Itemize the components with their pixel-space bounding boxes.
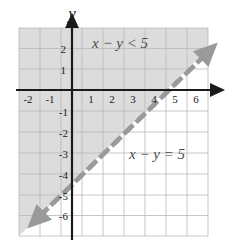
y-tick-label--3: -3 — [59, 148, 69, 160]
graph-figure: y -2 -1 1 2 3 4 5 6 2 1 -1 -2 -3 -4 -5 -… — [0, 0, 225, 244]
x-tick-label--2: -2 — [23, 93, 32, 105]
y-tick-label--6: -6 — [59, 210, 69, 222]
x-tick-label-2: 2 — [109, 93, 115, 105]
x-tick-label-6: 6 — [193, 93, 199, 105]
y-tick-label-2: 2 — [61, 43, 67, 55]
x-tick-label--1: -1 — [45, 93, 54, 105]
coordinate-plane-svg: y -2 -1 1 2 3 4 5 6 2 1 -1 -2 -3 -4 -5 -… — [0, 0, 225, 244]
x-tick-label-5: 5 — [172, 93, 178, 105]
x-tick-label-3: 3 — [130, 93, 136, 105]
y-tick-label-1: 1 — [61, 64, 67, 76]
equation-annotation: x − y = 5 — [128, 146, 186, 162]
x-tick-label-1: 1 — [88, 93, 94, 105]
y-tick-label--4: -4 — [59, 169, 69, 181]
y-axis-label: y — [66, 4, 76, 23]
y-tick-label--5: -5 — [59, 190, 69, 202]
x-tick-label-4: 4 — [151, 93, 157, 105]
inequality-annotation: x − y < 5 — [91, 35, 149, 51]
y-tick-label--2: -2 — [59, 127, 68, 139]
y-tick-label--1: -1 — [59, 106, 68, 118]
